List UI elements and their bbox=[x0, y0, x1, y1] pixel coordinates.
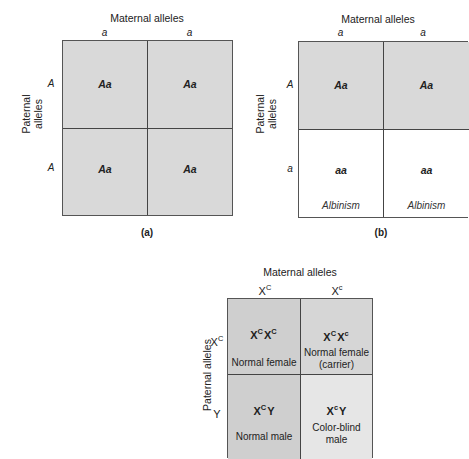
panel-caption: (b) bbox=[364, 227, 398, 238]
paternal-alleles-label: Paternal alleles bbox=[20, 84, 44, 144]
genotype: Aa bbox=[334, 79, 347, 91]
genotype: Aa bbox=[420, 79, 433, 91]
phenotype: Albinism bbox=[408, 200, 446, 211]
maternal-allele-1: a bbox=[298, 27, 383, 38]
phenotype: Normal female bbox=[231, 357, 296, 369]
grid-cell: Aa bbox=[63, 129, 148, 215]
maternal-allele-2: a bbox=[383, 27, 463, 38]
grid-cell: XCXc Normal female (carrier) bbox=[301, 299, 372, 375]
paternal-allele-2: Y bbox=[210, 408, 224, 420]
grid-cell: Aa bbox=[148, 129, 232, 215]
grid-cell: Aa bbox=[299, 42, 384, 130]
genotype: aa bbox=[421, 164, 433, 176]
phenotype: Albinism bbox=[322, 200, 360, 211]
genotype: Aa bbox=[183, 163, 196, 175]
genotype: XcY bbox=[327, 403, 347, 417]
punnett-grid: Aa Aa Aa Aa bbox=[62, 40, 233, 216]
genotype: XCY bbox=[253, 403, 274, 417]
genotype: XCXC bbox=[250, 327, 278, 341]
grid-cell: XCY Normal male bbox=[228, 375, 301, 459]
paternal-label-line1: Paternal bbox=[254, 84, 266, 144]
genotype: Aa bbox=[98, 78, 111, 90]
punnett-grid: Aa Aa aa Albinism aa Albinism bbox=[298, 41, 468, 218]
grid-cell: Aa bbox=[384, 42, 469, 130]
paternal-allele-2: a bbox=[284, 163, 296, 174]
maternal-allele-2: Xc bbox=[327, 283, 347, 297]
punnett-grid: XCXC Normal female XCXc Normal female (c… bbox=[227, 298, 373, 458]
grid-cell: Aa bbox=[63, 41, 148, 129]
paternal-allele-1: A bbox=[284, 79, 296, 90]
genotype: XCXc bbox=[323, 329, 349, 343]
maternal-allele-1: XC bbox=[255, 283, 275, 297]
grid-cell: Aa bbox=[148, 41, 232, 129]
grid-cell: aa Albinism bbox=[384, 130, 469, 217]
genotype: Aa bbox=[98, 163, 111, 175]
paternal-alleles-label: Paternal alleles bbox=[254, 84, 278, 144]
maternal-allele-2: a bbox=[147, 27, 232, 38]
phenotype-note: (carrier) bbox=[319, 359, 354, 371]
paternal-label-line2: alleles bbox=[266, 84, 278, 144]
grid-cell: XcY Color-blind male bbox=[301, 375, 372, 459]
paternal-label-line1: Paternal bbox=[20, 84, 32, 144]
grid-cell: XCXC Normal female bbox=[228, 299, 301, 375]
phenotype: Color-blind bbox=[312, 422, 360, 434]
phenotype: Normal female bbox=[304, 347, 369, 359]
phenotype-note: male bbox=[326, 434, 348, 446]
paternal-allele-1: XC bbox=[208, 334, 226, 348]
genotype: aa bbox=[335, 164, 347, 176]
genotype: Aa bbox=[183, 78, 196, 90]
paternal-allele-2: A bbox=[45, 162, 57, 173]
panel-caption: (a) bbox=[130, 227, 164, 238]
maternal-alleles-label: Maternal alleles bbox=[62, 12, 232, 24]
grid-cell: aa Albinism bbox=[299, 130, 384, 217]
maternal-alleles-label: Maternal alleles bbox=[240, 266, 360, 278]
paternal-label-line2: alleles bbox=[32, 84, 44, 144]
paternal-allele-1: A bbox=[45, 78, 57, 89]
maternal-allele-1: a bbox=[62, 27, 147, 38]
phenotype: Normal male bbox=[236, 431, 293, 443]
maternal-alleles-label: Maternal alleles bbox=[318, 13, 438, 25]
